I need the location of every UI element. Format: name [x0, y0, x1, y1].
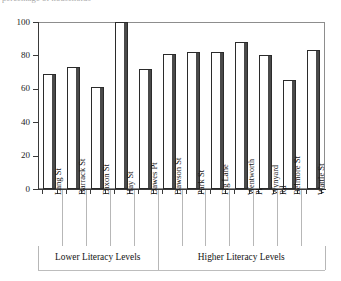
x-axis-tick — [306, 189, 307, 194]
x-axis-category-label: WentworthPl — [248, 149, 265, 195]
category-separator — [134, 190, 135, 246]
x-axis-tick — [114, 189, 115, 194]
group-label: Higher Literacy Levels — [158, 252, 325, 263]
x-axis-tick — [186, 189, 187, 194]
bar-shadow — [196, 53, 199, 188]
category-separator — [62, 190, 63, 246]
y-axis-tick-label: 20 — [21, 151, 30, 160]
category-separator — [205, 190, 206, 246]
y-axis-tick — [33, 189, 39, 190]
category-separator — [158, 190, 159, 246]
bar[interactable] — [235, 42, 248, 189]
x-axis-category-label-line: Pl — [257, 149, 265, 195]
category-separator — [110, 190, 111, 246]
x-axis-tick — [42, 189, 43, 194]
x-axis-category-label: Wattle St — [317, 163, 326, 195]
bar[interactable] — [115, 22, 128, 189]
x-axis-tick — [234, 189, 235, 194]
y-axis-labels: 020406080100 — [0, 0, 30, 281]
y-axis-tick — [33, 122, 39, 123]
x-axis-category-label-line: Rd — [281, 149, 289, 195]
y-axis-tick-label: 0 — [26, 185, 31, 194]
x-axis-tick — [210, 189, 211, 194]
y-axis-tick — [33, 22, 39, 23]
x-axis-category-label: WynyardRd — [272, 149, 289, 195]
x-axis-tick — [66, 189, 67, 194]
group-label: Lower Literacy Levels — [38, 252, 158, 263]
chart-figure: percentage of households 020406080100 La… — [0, 0, 341, 281]
y-axis-tick-label: 40 — [21, 118, 30, 127]
y-axis-tick-label: 60 — [21, 84, 30, 93]
category-separator — [253, 190, 254, 246]
bar[interactable] — [187, 52, 200, 189]
group-boundary — [325, 246, 326, 270]
category-separator — [229, 190, 230, 246]
group-rule — [38, 270, 158, 271]
y-axis-tick-label: 100 — [17, 18, 31, 27]
x-axis-tick — [138, 189, 139, 194]
category-separator — [277, 190, 278, 246]
y-axis-tick — [33, 55, 39, 56]
category-separator — [182, 190, 183, 246]
x-axis-tick — [162, 189, 163, 194]
y-axis-tick — [33, 89, 39, 90]
category-separator — [86, 190, 87, 246]
bar-shadow — [124, 23, 127, 188]
y-axis-tick-label: 80 — [21, 51, 30, 60]
group-rule — [158, 270, 325, 271]
x-axis-tick — [90, 189, 91, 194]
y-axis-line — [38, 22, 39, 190]
category-separator — [301, 190, 302, 246]
y-axis-tick — [33, 156, 39, 157]
